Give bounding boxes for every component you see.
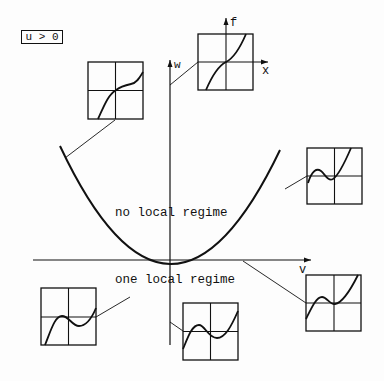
inset-bottom-left xyxy=(41,288,96,345)
leader-bottom-center xyxy=(170,322,183,331)
leader-right-bottom xyxy=(243,261,306,303)
region-label-above: no local regime xyxy=(115,206,228,220)
region-label-below: one local regime xyxy=(115,273,235,287)
inset-right-bottom xyxy=(306,275,361,331)
leader-right-middle xyxy=(285,176,307,189)
inset-top-left xyxy=(88,62,143,119)
leader-top-left xyxy=(65,120,115,158)
inset-bottom-center xyxy=(183,303,238,360)
inset-f-label: f xyxy=(230,16,237,30)
w-axis-label: w xyxy=(174,59,181,71)
phase-diagram: v w no local regime one local regime f x xyxy=(0,0,384,381)
inset-x-label: x xyxy=(262,64,269,78)
inset-right-middle xyxy=(307,148,362,204)
leader-bottom-left xyxy=(96,297,130,317)
v-axis-label: v xyxy=(299,263,306,277)
